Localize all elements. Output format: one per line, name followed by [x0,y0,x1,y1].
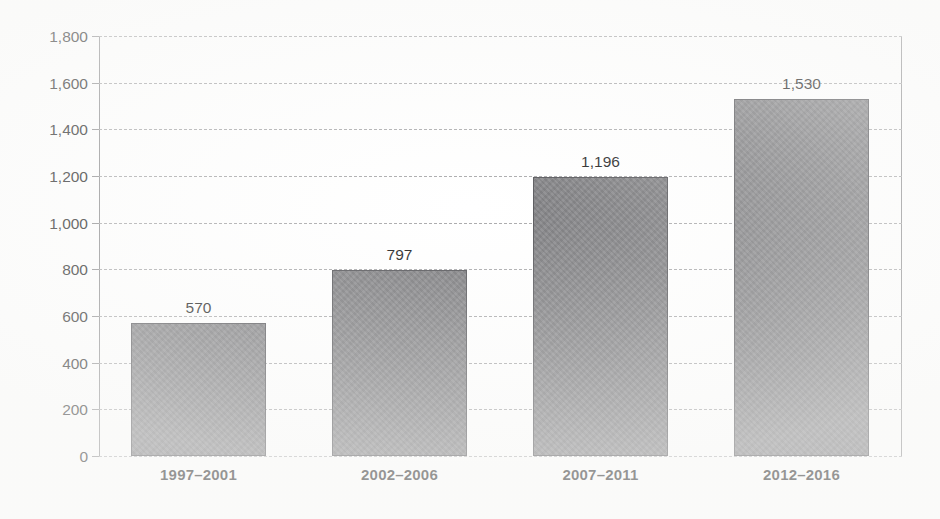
y-axis-tick-label-text: 1,200 [49,168,88,186]
plot-right-border [901,36,902,456]
y-axis-tick [92,409,99,410]
plot-area [99,36,902,456]
y-axis-line [99,36,100,456]
y-axis-tick-label-text: 1,400 [49,121,88,139]
x-axis-labels: 1997–20012002–20062007–20112012–2016 [99,466,902,496]
y-axis-tick [92,316,99,317]
y-axis-tick-label-text: 1,600 [49,75,88,93]
bar-value-label: 570 [131,300,266,316]
y-axis-tick-label-text: 1,000 [49,215,88,233]
y-axis-tick-label-text: 0 [79,448,88,466]
bar [734,99,869,456]
y-axis-tick [92,83,99,84]
bar-value-label: 797 [332,247,467,263]
y-axis-tick-label-text: 200 [62,401,88,419]
y-axis-tick [92,129,99,130]
bar-chart: 02004006008001,0001,2001,4001,6001,800 5… [0,0,940,519]
x-axis-category-label: 2012–2016 [734,466,869,483]
x-axis-category-label: 1997–2001 [131,466,266,483]
y-axis-tick [92,36,99,37]
gridline [99,456,902,457]
bar [533,177,668,456]
y-axis-tick-label-text: 400 [62,355,88,373]
y-axis-tick [92,223,99,224]
y-axis-tick [92,363,99,364]
y-axis-tick-label-text: 800 [62,261,88,279]
y-axis-tick [92,176,99,177]
y-axis-tick [92,269,99,270]
bar-value-label: 1,530 [734,76,869,92]
y-axis-tick [92,456,99,457]
y-axis-labels: 02004006008001,0001,2001,4001,6001,800 [0,36,90,456]
x-axis-category-label: 2002–2006 [332,466,467,483]
bar [131,323,266,456]
x-axis-category-label: 2007–2011 [533,466,668,483]
bar [332,270,467,456]
y-axis-tick-label-text: 600 [62,308,88,326]
y-axis-tick-label-text: 1,800 [49,28,88,46]
bar-value-label: 1,196 [533,154,668,170]
gridline [99,36,902,37]
